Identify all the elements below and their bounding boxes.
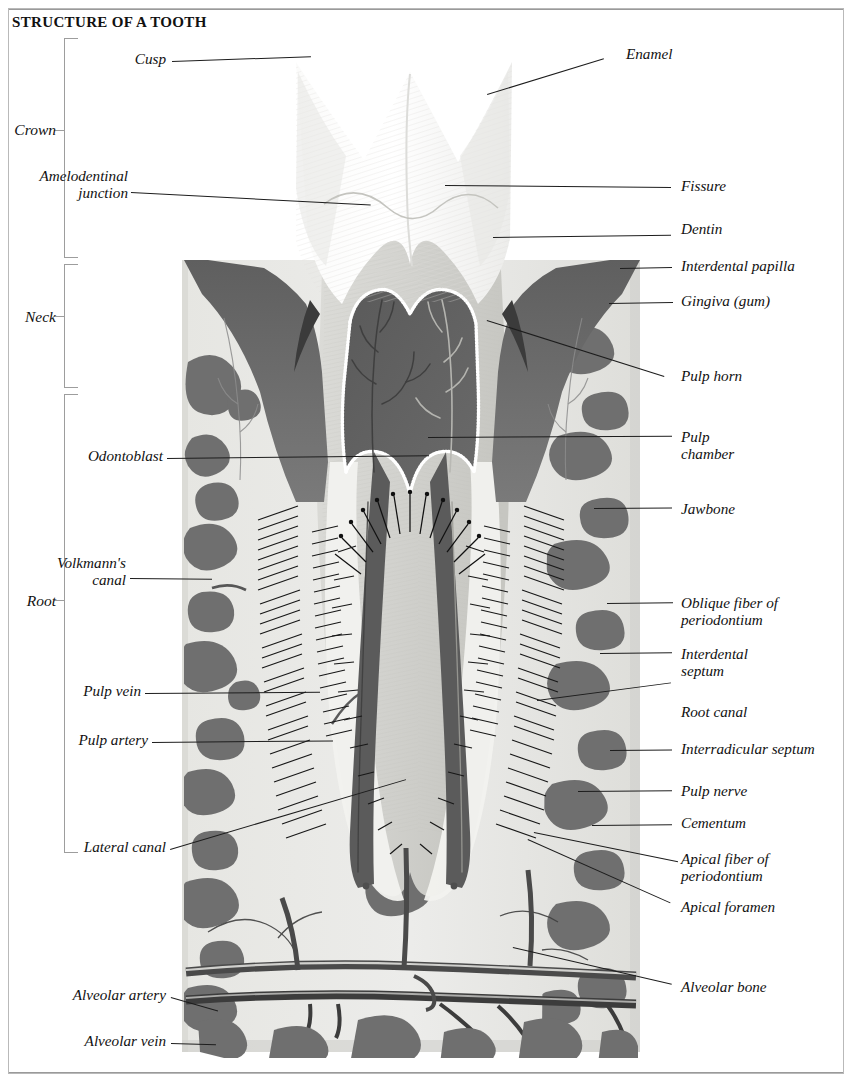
label-pulp-nerve-text: Pulp nerve	[681, 782, 747, 799]
region-bracket-neck	[50, 264, 80, 388]
label-oblique-fiber-line1: Oblique fiber of	[681, 594, 778, 611]
label-pulp-nerve: Pulp nerve	[681, 782, 747, 799]
label-root-canal: Root canal	[681, 703, 747, 720]
label-interdental-septum: Interdental septum	[681, 645, 748, 679]
leader-interdental-papilla	[620, 267, 672, 269]
label-alveolar-vein: Alveolar vein	[0, 1032, 166, 1049]
label-odontoblast-text: Odontoblast	[88, 447, 163, 464]
top-rule	[8, 8, 844, 10]
label-oblique-fiber: Oblique fiber of periodontium	[681, 594, 778, 628]
region-neck: Neck	[0, 308, 56, 326]
label-pulp-artery-text: Pulp artery	[78, 731, 148, 748]
label-jawbone-text: Jawbone	[681, 500, 735, 517]
region-bracket-crown	[50, 38, 80, 258]
label-cusp: Cusp	[56, 50, 166, 67]
label-alveolar-artery: Alveolar artery	[0, 986, 166, 1003]
label-pulp-chamber: Pulp chamber	[681, 428, 734, 462]
leader-volkmanns-canal	[130, 578, 212, 580]
label-apical-foramen: Apical foramen	[681, 898, 775, 915]
label-odontoblast: Odontoblast	[0, 447, 163, 464]
label-alveolar-bone: Alveolar bone	[681, 978, 767, 995]
label-pulp-artery: Pulp artery	[0, 731, 148, 748]
label-volkmanns-canal: Volkmann's canal	[0, 554, 126, 588]
page-title: STRUCTURE OF A TOOTH	[12, 14, 207, 31]
label-pulp-vein-text: Pulp vein	[83, 682, 141, 699]
plate-page: STRUCTURE OF A TOOTH Crown Neck Root	[0, 0, 853, 1083]
label-amelodentinal-junction: Amelodentinal junction	[0, 167, 128, 201]
label-interdental-papilla: Interdental papilla	[681, 257, 795, 274]
label-pulp-horn-text: Pulp horn	[681, 367, 742, 384]
label-alveolar-vein-text: Alveolar vein	[85, 1032, 166, 1049]
label-pulp-horn: Pulp horn	[681, 367, 742, 384]
label-fissure-text: Fissure	[681, 177, 726, 194]
label-interradicular-septum: Interradicular septum	[681, 740, 815, 757]
label-amelodentinal-junction-line2: junction	[0, 184, 128, 201]
label-gingiva: Gingiva (gum)	[681, 292, 770, 309]
label-apical-fiber: Apical fiber of periodontium	[681, 850, 769, 884]
label-cementum: Cementum	[681, 814, 746, 831]
label-jawbone: Jawbone	[681, 500, 735, 517]
label-pulp-chamber-line2: chamber	[681, 445, 734, 462]
label-alveolar-bone-text: Alveolar bone	[681, 978, 767, 995]
label-interradicular-septum-text: Interradicular septum	[681, 740, 815, 757]
label-interdental-septum-line2: septum	[681, 662, 748, 679]
label-amelodentinal-junction-line1: Amelodentinal	[0, 167, 128, 184]
label-volkmanns-canal-line1: Volkmann's	[0, 554, 126, 571]
label-cementum-text: Cementum	[681, 814, 746, 831]
label-cusp-text: Cusp	[135, 50, 166, 67]
label-fissure: Fissure	[681, 177, 726, 194]
label-apical-fiber-line1: Apical fiber of	[681, 850, 769, 867]
label-root-canal-text: Root canal	[681, 703, 747, 720]
label-gingiva-text: Gingiva (gum)	[681, 292, 770, 309]
label-volkmanns-canal-line2: canal	[0, 571, 126, 588]
label-oblique-fiber-line2: periodontium	[681, 611, 778, 628]
region-crown: Crown	[0, 121, 56, 139]
label-pulp-vein: Pulp vein	[0, 682, 141, 699]
label-interdental-papilla-text: Interdental papilla	[681, 257, 795, 274]
label-apical-fiber-line2: periodontium	[681, 867, 769, 884]
region-root: Root	[0, 592, 56, 610]
label-enamel: Enamel	[626, 45, 672, 62]
label-interdental-septum-line1: Interdental	[681, 645, 748, 662]
apical-foramen-right	[451, 883, 458, 890]
label-lateral-canal: Lateral canal	[0, 838, 166, 855]
label-dentin-text: Dentin	[681, 220, 722, 237]
bottom-rule	[8, 1072, 844, 1074]
apical-foramen-left	[363, 883, 370, 890]
label-apical-foramen-text: Apical foramen	[681, 898, 775, 915]
label-dentin: Dentin	[681, 220, 722, 237]
label-alveolar-artery-text: Alveolar artery	[73, 986, 166, 1003]
label-lateral-canal-text: Lateral canal	[84, 838, 166, 855]
label-pulp-chamber-line1: Pulp	[681, 428, 734, 445]
label-enamel-text: Enamel	[626, 45, 672, 62]
